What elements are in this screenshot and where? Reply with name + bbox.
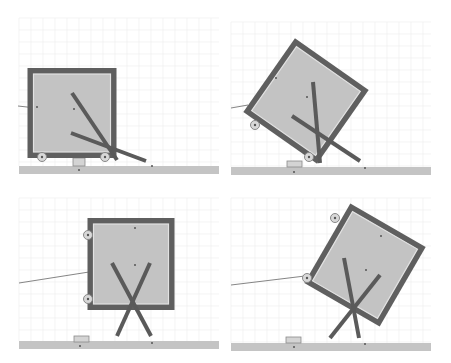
center-dot [365, 269, 367, 271]
wheel-axle [334, 217, 336, 219]
simulation-figure [0, 0, 451, 363]
small-block [74, 336, 89, 342]
panel-bottom-left [19, 198, 219, 349]
small-block [73, 158, 85, 166]
ground-plane [19, 166, 219, 174]
box-interior [252, 47, 361, 156]
marker-dot [293, 346, 295, 348]
box [243, 38, 368, 163]
pull-string [231, 276, 305, 285]
center-dot [275, 77, 277, 79]
marker-dot [78, 169, 80, 171]
marker-dot [151, 165, 153, 167]
center-dot [36, 106, 38, 108]
center-dot [134, 264, 136, 266]
marker-dot [151, 342, 153, 344]
ground-plane [231, 343, 431, 351]
pull-string [231, 105, 248, 108]
panel-top-right [231, 22, 431, 175]
marker-dot [364, 343, 366, 345]
wheel-axle [87, 234, 89, 236]
panel-top-left [18, 18, 219, 174]
marker-dot [293, 171, 295, 173]
wheel-axle [41, 156, 43, 158]
small-block [286, 337, 301, 343]
wheel-axle [104, 156, 106, 158]
center-dot [380, 235, 382, 237]
box-interior [313, 212, 418, 319]
ground-plane [19, 341, 219, 349]
small-block [287, 161, 302, 167]
center-dot [306, 96, 308, 98]
center-dot [134, 227, 136, 229]
marker-dot [364, 167, 366, 169]
pull-string [19, 272, 89, 283]
panel-bottom-right [231, 198, 431, 351]
center-dot [73, 108, 75, 110]
wheel-axle [254, 124, 256, 126]
wheel-axle [87, 298, 89, 300]
ground-plane [231, 167, 431, 175]
box-interior [34, 74, 111, 152]
marker-dot [79, 345, 81, 347]
box-interior [94, 224, 169, 304]
wheel-axle [306, 277, 308, 279]
wheel-axle [308, 156, 310, 158]
